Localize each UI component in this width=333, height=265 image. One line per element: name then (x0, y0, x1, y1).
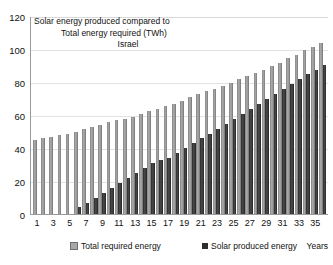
bar-group (270, 17, 278, 214)
bar-solar-produced-energy (78, 207, 82, 214)
bar-solar-produced-energy (192, 143, 196, 214)
x-axis-tick-label: 33 (294, 217, 302, 231)
bar-solar-produced-energy (241, 114, 245, 214)
x-axis-tick-label: 17 (163, 217, 171, 231)
bar-group (254, 17, 262, 214)
bar-total-required-energy (33, 140, 37, 214)
chart-legend: Total required energy Solar produced ene… (30, 241, 330, 255)
y-axis-tick-label: 80 (0, 78, 25, 89)
bar-solar-produced-energy (143, 168, 147, 214)
bar-solar-produced-energy (225, 124, 229, 214)
bar-solar-produced-energy (306, 74, 310, 214)
chart-title-line-3: Israel (34, 39, 224, 51)
bar-group (295, 17, 303, 214)
legend-swatch-icon-total (70, 242, 78, 250)
legend-label-total: Total required energy (81, 241, 161, 251)
bar-group (229, 17, 237, 214)
x-axis-tick-label: 19 (179, 217, 187, 231)
chart-title-line-1: Solar energy produced compared to (34, 16, 224, 28)
bar-solar-produced-energy (176, 153, 180, 214)
bar-group (311, 17, 319, 214)
x-axis-tick-label: 15 (147, 217, 155, 231)
x-axis-tick-label: 25 (229, 217, 237, 231)
y-axis-tick-label: 60 (0, 111, 25, 122)
bar-group (319, 17, 327, 214)
bar-total-required-energy (58, 135, 62, 214)
x-axis-tick-label: 7 (81, 217, 89, 231)
chart-container: 020406080100120 Solar energy produced co… (0, 0, 333, 265)
bar-solar-produced-energy (216, 129, 220, 214)
x-axis-tick-label: 35 (310, 217, 318, 231)
x-axis-tick-label: 21 (196, 217, 204, 231)
bar-solar-produced-energy (233, 119, 237, 214)
bar-total-required-energy (41, 138, 45, 214)
bar-group (278, 17, 286, 214)
bar-solar-produced-energy (167, 158, 171, 214)
x-axis-tick-label (319, 217, 327, 231)
bar-solar-produced-energy (249, 109, 253, 214)
bar-solar-produced-energy (265, 99, 269, 214)
bar-solar-produced-energy (102, 193, 106, 214)
x-axis: 1357911131517192123252729313335 (30, 217, 328, 231)
bar-group (262, 17, 270, 214)
y-axis-tick-label: 0 (0, 210, 25, 221)
x-axis-tick-label: 29 (261, 217, 269, 231)
bar-group (245, 17, 253, 214)
bar-solar-produced-energy (184, 148, 188, 214)
x-axis-tick-label: 9 (98, 217, 106, 231)
x-axis-tick-label: 1 (32, 217, 40, 231)
legend-item-total-required-energy: Total required energy (70, 241, 161, 251)
x-axis-tick-label: 5 (65, 217, 73, 231)
legend-swatch-icon-solar (202, 243, 208, 249)
bar-solar-produced-energy (135, 173, 139, 214)
legend-item-solar-produced-energy: Solar produced energy (202, 241, 297, 251)
bar-solar-produced-energy (110, 188, 114, 214)
y-axis-tick-label: 40 (0, 144, 25, 155)
x-axis-tick-label: 31 (278, 217, 286, 231)
bar-total-required-energy (49, 137, 53, 214)
bar-solar-produced-energy (208, 134, 212, 214)
bar-solar-produced-energy (86, 203, 90, 214)
bar-solar-produced-energy (282, 89, 286, 214)
bar-group (286, 17, 294, 214)
x-axis-tick-label: 27 (245, 217, 253, 231)
bar-solar-produced-energy (151, 163, 155, 214)
bar-group (237, 17, 245, 214)
legend-label-solar: Solar produced energy (211, 241, 297, 251)
x-axis-tick-label: 23 (212, 217, 220, 231)
bar-solar-produced-energy (200, 138, 204, 214)
bar-solar-produced-energy (94, 198, 98, 214)
y-axis-tick-label: 100 (0, 45, 25, 56)
x-axis-tick-label: 3 (48, 217, 56, 231)
bar-solar-produced-energy (159, 160, 163, 214)
chart-title-line-2: Total energy required (TWh) (34, 28, 224, 40)
bar-total-required-energy (74, 132, 78, 214)
bar-solar-produced-energy (323, 65, 327, 214)
bar-total-required-energy (82, 129, 86, 214)
x-axis-tick-label: 13 (130, 217, 138, 231)
chart-title: Solar energy produced compared to Total … (34, 16, 224, 51)
bar-total-required-energy (66, 134, 70, 214)
bar-solar-produced-energy (290, 84, 294, 214)
bar-solar-produced-energy (118, 183, 122, 214)
x-axis-title: Years (307, 241, 328, 251)
bar-solar-produced-energy (298, 79, 302, 214)
bar-solar-produced-energy (315, 70, 319, 214)
x-axis-tick-label: 11 (114, 217, 122, 231)
bar-solar-produced-energy (257, 104, 261, 214)
bar-solar-produced-energy (274, 94, 278, 214)
y-axis-tick-label: 20 (0, 177, 25, 188)
bar-group (303, 17, 311, 214)
bar-solar-produced-energy (127, 178, 131, 214)
y-axis-tick-label: 120 (0, 12, 25, 23)
